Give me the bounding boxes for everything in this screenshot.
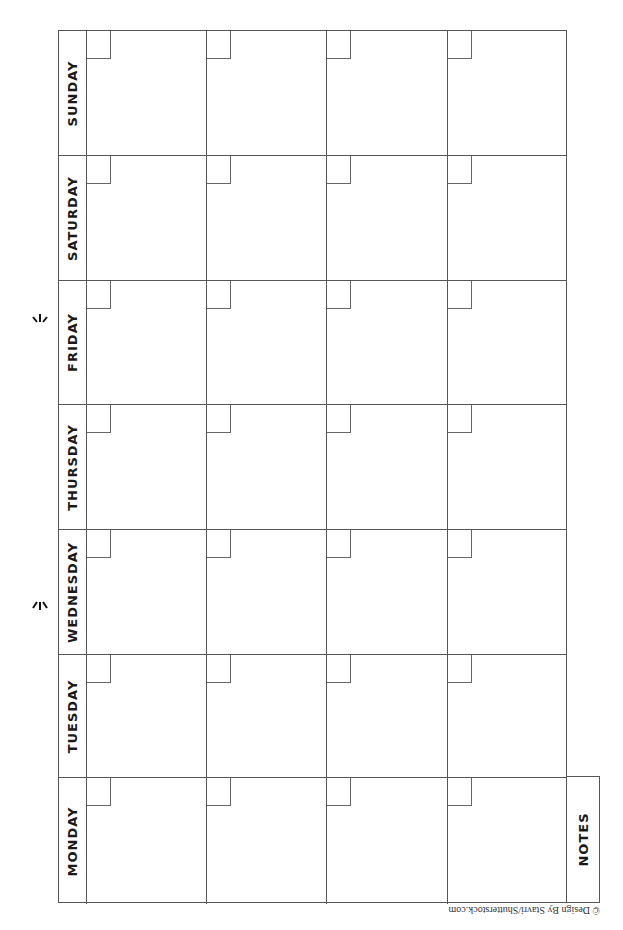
date-box[interactable] [207,405,231,433]
date-box[interactable] [327,778,351,806]
day-cell[interactable] [448,655,568,777]
day-row-saturday: SATURDAY [59,156,566,281]
day-row-friday: FRIDAY [59,281,566,405]
day-cell[interactable] [327,156,448,280]
date-box[interactable] [327,655,351,683]
day-header: TUESDAY [59,655,87,777]
calendar-grid: SUNDAY SATURDAY FRIDAY [58,30,567,903]
day-cell[interactable] [207,156,327,280]
day-cell[interactable] [448,31,568,155]
day-label: TUESDAY [65,679,80,753]
punch-mark-icon [31,598,49,612]
date-box[interactable] [87,655,111,683]
day-cell[interactable] [448,778,568,904]
date-box[interactable] [207,655,231,683]
date-box[interactable] [448,655,472,683]
day-cell[interactable] [87,405,207,529]
date-box[interactable] [327,530,351,558]
date-box[interactable] [207,281,231,309]
day-header: MONDAY [59,778,87,904]
punch-mark-icon [31,312,49,326]
date-box[interactable] [327,31,351,59]
notes-label: NOTES [576,812,591,866]
day-cell[interactable] [207,530,327,654]
day-cell[interactable] [448,156,568,280]
day-label: WEDNESDAY [65,541,80,642]
day-label: FRIDAY [65,313,80,372]
date-box[interactable] [327,156,351,184]
day-header: SUNDAY [59,31,87,155]
day-header: THURSDAY [59,405,87,529]
notes-box[interactable]: NOTES [567,776,600,903]
date-box[interactable] [87,405,111,433]
day-label: SATURDAY [65,176,80,261]
day-row-wednesday: WEDNESDAY [59,530,566,655]
date-box[interactable] [87,156,111,184]
day-cell[interactable] [327,778,448,904]
date-box[interactable] [207,778,231,806]
day-cell[interactable] [448,405,568,529]
day-cell[interactable] [327,31,448,155]
day-cell[interactable] [207,655,327,777]
date-box[interactable] [207,156,231,184]
date-box[interactable] [87,530,111,558]
day-cell[interactable] [207,31,327,155]
day-header: FRIDAY [59,281,87,404]
day-cell[interactable] [87,156,207,280]
date-box[interactable] [207,31,231,59]
day-cell[interactable] [207,778,327,904]
day-cell[interactable] [327,281,448,404]
day-row-sunday: SUNDAY [59,31,566,156]
date-box[interactable] [327,281,351,309]
day-cell[interactable] [87,655,207,777]
day-cell[interactable] [207,281,327,404]
day-label: THURSDAY [65,424,80,511]
day-header: SATURDAY [59,156,87,280]
day-cell[interactable] [327,655,448,777]
day-cell[interactable] [87,31,207,155]
copyright-text: © Design By Stavri/Shutterstock.com [400,905,600,916]
day-row-tuesday: TUESDAY [59,655,566,778]
date-box[interactable] [448,281,472,309]
date-box[interactable] [448,778,472,806]
date-box[interactable] [448,156,472,184]
date-box[interactable] [87,281,111,309]
day-label: SUNDAY [65,60,80,126]
date-box[interactable] [87,778,111,806]
day-cell[interactable] [448,281,568,404]
date-box[interactable] [207,530,231,558]
day-cell[interactable] [87,778,207,904]
day-cell[interactable] [87,530,207,654]
date-box[interactable] [448,405,472,433]
day-row-monday: MONDAY [59,778,566,904]
date-box[interactable] [448,31,472,59]
date-box[interactable] [448,530,472,558]
day-label: MONDAY [65,806,80,876]
day-cell[interactable] [327,530,448,654]
date-box[interactable] [87,31,111,59]
day-cell[interactable] [448,530,568,654]
calendar-page: SUNDAY SATURDAY FRIDAY [0,0,623,930]
day-row-thursday: THURSDAY [59,405,566,530]
date-box[interactable] [327,405,351,433]
day-header: WEDNESDAY [59,530,87,654]
day-cell[interactable] [207,405,327,529]
day-cell[interactable] [87,281,207,404]
day-cell[interactable] [327,405,448,529]
